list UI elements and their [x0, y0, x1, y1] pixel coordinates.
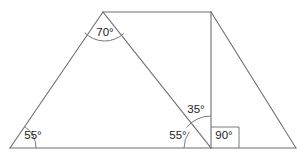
- angle-label-right-angle: 90°: [215, 129, 232, 141]
- angle-label-lower-middle: 55°: [169, 129, 186, 141]
- angle-label-apex: 70°: [96, 26, 113, 38]
- angle-label-bottom-left: 55°: [24, 129, 41, 141]
- angle-label-upper-middle: 35°: [187, 103, 204, 115]
- diagonal-line: [103, 12, 211, 148]
- geometry-diagram: 55° 70° 35° 55° 90°: [0, 0, 306, 153]
- left-slant-line: [10, 12, 103, 148]
- right-slant-line: [211, 12, 296, 148]
- geometry-figure-container: 55° 70° 35° 55° 90°: [0, 0, 306, 153]
